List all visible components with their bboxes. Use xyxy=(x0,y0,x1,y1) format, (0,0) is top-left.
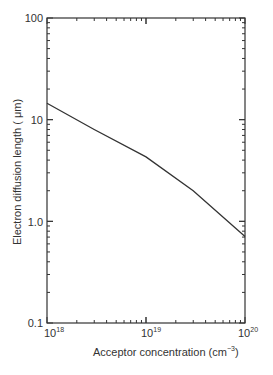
y-tick-100: 100 xyxy=(25,12,43,24)
y-tick-0-1: 0.1 xyxy=(28,317,43,329)
chart: 100 10 1.0 0.1 1018 1019 1020 Acceptor c… xyxy=(0,0,273,375)
x-tick-1e18: 1018 xyxy=(44,326,64,339)
axis-ticks xyxy=(47,18,245,323)
y-tick-10: 10 xyxy=(31,114,43,126)
x-tick-1e20: 1020 xyxy=(238,326,258,339)
y-tick-1: 1.0 xyxy=(28,216,43,228)
diffusion-length-curve xyxy=(47,103,245,236)
y-axis-label: Electron diffusion length ( μm) xyxy=(11,99,23,245)
plot-frame xyxy=(47,18,245,323)
x-tick-1e19: 1019 xyxy=(141,326,161,339)
x-axis-label: Acceptor concentration (cm−3) xyxy=(93,345,239,358)
